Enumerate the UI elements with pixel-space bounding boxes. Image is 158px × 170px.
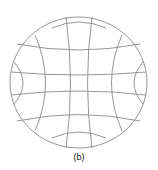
figure-caption: (b) <box>0 152 158 162</box>
top-cap-arc <box>52 22 106 28</box>
horizontal-line-mid-upper <box>11 72 146 75</box>
distortion-figure: (b) <box>0 0 158 170</box>
distorted-grid-diagram <box>0 0 158 170</box>
vertical-line-inner-left <box>66 17 71 148</box>
horizontal-line-mid-lower <box>11 91 146 95</box>
bottom-cap-arc <box>52 132 106 138</box>
right-cap-arc <box>134 62 143 104</box>
left-cap-arc <box>14 62 23 104</box>
outer-circle <box>10 17 147 148</box>
vertical-line-inner-right <box>88 17 93 148</box>
horizontal-line-upper <box>17 44 140 50</box>
horizontal-line-lower <box>17 115 140 122</box>
